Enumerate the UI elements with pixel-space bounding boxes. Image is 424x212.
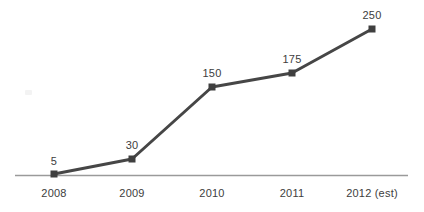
- data-point-marker-3: [289, 70, 296, 77]
- x-axis-tick-label-2010: 2010: [199, 187, 224, 199]
- x-axis-tick-label-2012-est: 2012 (est): [346, 187, 398, 199]
- data-label-4: 250: [363, 9, 382, 21]
- data-label-1: 30: [126, 139, 139, 151]
- data-point-marker-0: [51, 171, 58, 178]
- data-point-markers: [51, 26, 376, 178]
- data-label-0: 5: [51, 155, 57, 167]
- chart-plot-area: [0, 0, 424, 212]
- data-label-3: 175: [283, 53, 302, 65]
- data-point-marker-2: [209, 84, 216, 91]
- x-axis-tick-label-2011: 2011: [280, 187, 304, 199]
- x-axis-tick-label-2008: 2008: [41, 187, 66, 199]
- data-point-marker-1: [129, 156, 136, 163]
- data-point-marker-4: [369, 26, 376, 33]
- x-axis-tick-label-2009: 2009: [119, 187, 144, 199]
- line-chart: 5 30 150 175 250 2008 2009 2010 2011 201…: [0, 0, 424, 212]
- data-series-line: [54, 29, 372, 174]
- data-label-2: 150: [203, 67, 222, 79]
